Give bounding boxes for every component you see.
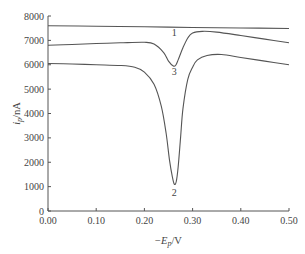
y-tick-label: 6000 bbox=[24, 59, 44, 70]
y-tick-label: 1000 bbox=[24, 181, 44, 192]
y-tick-label: 2000 bbox=[24, 157, 44, 168]
curve-label-2: 2 bbox=[172, 187, 177, 198]
x-tick-label: 0.50 bbox=[280, 215, 298, 226]
y-tick-label: 4000 bbox=[24, 108, 44, 119]
curve-label-1: 1 bbox=[172, 27, 177, 38]
y-tick-label: 8000 bbox=[24, 11, 44, 22]
x-tick-label: 0.00 bbox=[39, 215, 57, 226]
curve-labels: 132 bbox=[172, 27, 177, 198]
curves bbox=[48, 26, 289, 185]
y-axis-ticks: 010002000300040005000600070008000 bbox=[24, 11, 51, 217]
axes bbox=[48, 16, 289, 211]
voltammogram-chart: 010002000300040005000600070008000 0.000.… bbox=[0, 0, 305, 254]
curve-label-3: 3 bbox=[172, 66, 177, 77]
y-tick-label: 5000 bbox=[24, 84, 44, 95]
x-axis-title: −Ep/V bbox=[155, 235, 182, 248]
y-tick-label: 7000 bbox=[24, 35, 44, 46]
chart-svg: 010002000300040005000600070008000 0.000.… bbox=[0, 0, 305, 254]
curve-3 bbox=[48, 31, 289, 66]
x-tick-label: 0.10 bbox=[87, 215, 105, 226]
x-tick-label: 0.40 bbox=[232, 215, 250, 226]
y-axis-title: ip/nA bbox=[11, 102, 24, 125]
y-tick-label: 3000 bbox=[24, 132, 44, 143]
curve-2 bbox=[48, 54, 289, 184]
x-tick-label: 0.30 bbox=[184, 215, 202, 226]
x-tick-label: 0.20 bbox=[136, 215, 154, 226]
axis-titles: −Ep/Vip/nA bbox=[11, 102, 182, 248]
curve-1 bbox=[48, 26, 289, 29]
